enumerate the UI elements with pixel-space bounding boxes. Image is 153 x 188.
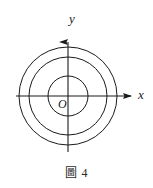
coordinate-diagram <box>0 0 153 188</box>
figure-container: y x O 圖 4 <box>0 0 153 188</box>
y-axis-label: y <box>69 12 75 25</box>
figure-caption: 圖 4 <box>0 163 153 181</box>
x-axis-label: x <box>138 88 144 101</box>
origin-label: O <box>58 98 67 110</box>
